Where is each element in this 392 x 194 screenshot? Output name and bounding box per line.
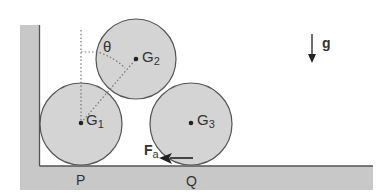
contact-point-p: P <box>76 172 85 188</box>
wall <box>20 25 40 190</box>
center-g2 <box>134 57 139 62</box>
angle-theta-label: θ <box>103 38 111 55</box>
center-g1 <box>79 121 84 126</box>
gravity-label: g <box>322 35 331 51</box>
gravity-arrow-head <box>308 54 316 63</box>
contact-point-q: Q <box>186 173 197 189</box>
diagram-canvas: G1 G2 G3 θ g Fa P Q <box>0 0 392 194</box>
gravity-arrow <box>308 34 316 63</box>
center-g3 <box>189 121 194 126</box>
